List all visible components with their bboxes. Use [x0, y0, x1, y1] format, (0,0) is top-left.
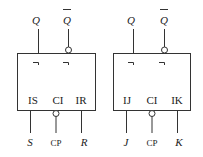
- rs-qbar-label: Q: [63, 14, 71, 26]
- jk-q-delay-mark-icon: [128, 63, 134, 66]
- rs-q-delay-mark-icon: [33, 63, 39, 66]
- rs-signal-s: S: [27, 136, 33, 148]
- jk-qbar-inversion-bubble: [162, 47, 168, 53]
- jk-signal-cp: CP: [146, 138, 157, 148]
- jk-q-label: Q: [127, 14, 135, 26]
- jk-flip-flop-block: Q Q IJ CI IK J CP K: [114, 10, 191, 149]
- jk-qbar-delay-mark-icon: [159, 63, 165, 66]
- rs-q-label: Q: [32, 14, 40, 26]
- jk-pin-ik: IK: [171, 94, 183, 106]
- rs-cp-inversion-bubble: [53, 111, 59, 117]
- rs-signal-cp: CP: [50, 138, 61, 148]
- flip-flop-diagram: Q Q IS CI IR S CP R Q Q: [0, 0, 203, 157]
- rs-qbar-delay-mark-icon: [63, 63, 69, 66]
- jk-cp-inversion-bubble: [149, 111, 155, 117]
- rs-signal-r: R: [80, 136, 88, 148]
- jk-signal-j: J: [124, 136, 130, 148]
- rs-pin-ci: CI: [53, 94, 64, 106]
- jk-qbar-label: Q: [160, 14, 168, 26]
- jk-pin-ci: CI: [147, 94, 158, 106]
- rs-pin-is: IS: [28, 94, 38, 106]
- rs-qbar-inversion-bubble: [66, 47, 72, 53]
- rs-flip-flop-block: Q Q IS CI IR S CP R: [18, 10, 96, 149]
- rs-pin-ir: IR: [76, 94, 88, 106]
- jk-pin-ij: IJ: [123, 94, 132, 106]
- jk-signal-k: K: [174, 136, 183, 148]
